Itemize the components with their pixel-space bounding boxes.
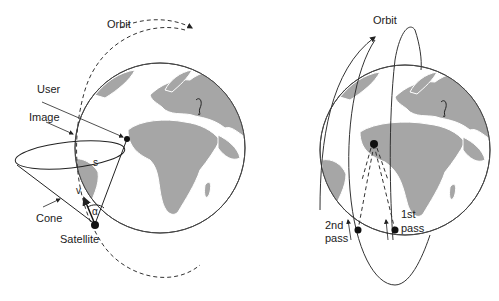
- pass2-satellite-icon: [355, 227, 362, 234]
- diagram-canvas: [0, 0, 499, 301]
- right-user-point-icon: [370, 140, 378, 148]
- image-label: Image: [29, 111, 60, 123]
- cone-label: Cone: [36, 212, 62, 224]
- user-point-icon: [124, 136, 130, 142]
- alpha-label: α: [92, 206, 98, 218]
- user-label: User: [37, 83, 60, 95]
- arc-s-label: s: [93, 157, 98, 169]
- pass2-label-line2: pass: [325, 232, 348, 244]
- pass1-label-line1: 1st: [401, 208, 416, 220]
- left-orbit-label: Orbit: [107, 18, 131, 30]
- satellite-label: Satellite: [60, 233, 99, 245]
- pass2-label-line1: 2nd: [325, 219, 343, 231]
- pass1-label-line2: pass: [401, 222, 424, 234]
- velocity-label: v: [76, 185, 81, 197]
- right-orbit-label: Orbit: [373, 14, 397, 26]
- pass1-satellite-icon: [392, 227, 399, 234]
- pass2-arrow-icon: [348, 220, 351, 240]
- satellite-icon: [91, 221, 99, 229]
